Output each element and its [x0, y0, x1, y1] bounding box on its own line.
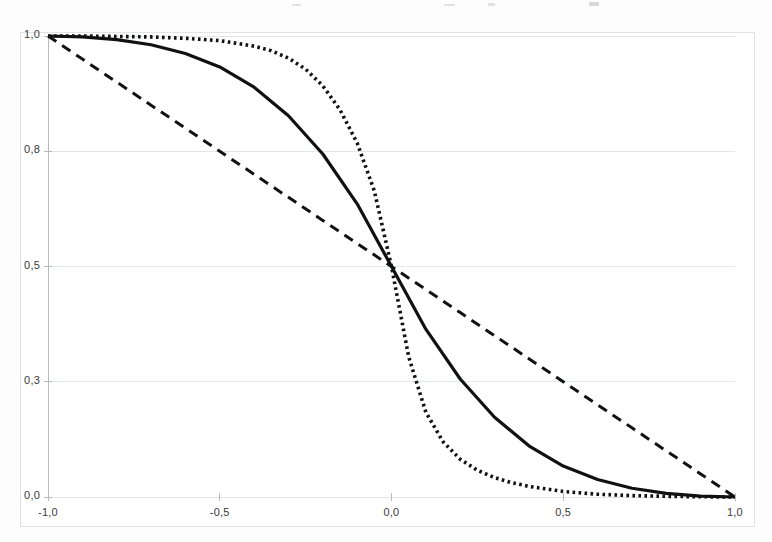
y-axis-tick-label: 0,8	[6, 143, 40, 155]
chart-plot-canvas	[0, 0, 772, 542]
y-axis-tick-label: 0,3	[6, 374, 40, 386]
y-axis-tick-label: 0,0	[6, 489, 40, 501]
x-axis-tick-label: -1,0	[25, 506, 71, 518]
ticks-group	[44, 36, 735, 501]
y-axis-tick-label: 1,0	[6, 28, 40, 40]
x-axis-tick-label: 1,0	[712, 506, 758, 518]
x-axis-tick-label: 0,0	[369, 506, 415, 518]
y-axis-tick-label: 0,5	[6, 259, 40, 271]
x-axis-tick-label: 0,5	[540, 506, 586, 518]
x-axis-tick-label: -0,5	[197, 506, 243, 518]
